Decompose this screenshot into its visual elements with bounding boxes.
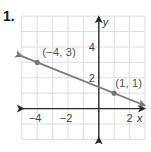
point-label: (−4, 3) bbox=[42, 46, 76, 58]
coordinate-plane: −4−2224 (−4, 3)(1, 1) x y bbox=[0, 0, 151, 152]
x-tick-label: −2 bbox=[60, 112, 73, 124]
x-tick-label: −4 bbox=[29, 112, 42, 124]
y-tick-label: 2 bbox=[89, 72, 95, 84]
data-point bbox=[112, 91, 117, 96]
x-axis-label: x bbox=[136, 112, 143, 124]
x-tick-label: 2 bbox=[127, 112, 133, 124]
y-tick-label: 4 bbox=[89, 41, 95, 53]
y-axis-label: y bbox=[102, 16, 110, 28]
point-label: (1, 1) bbox=[115, 77, 142, 89]
data-point bbox=[35, 60, 40, 65]
